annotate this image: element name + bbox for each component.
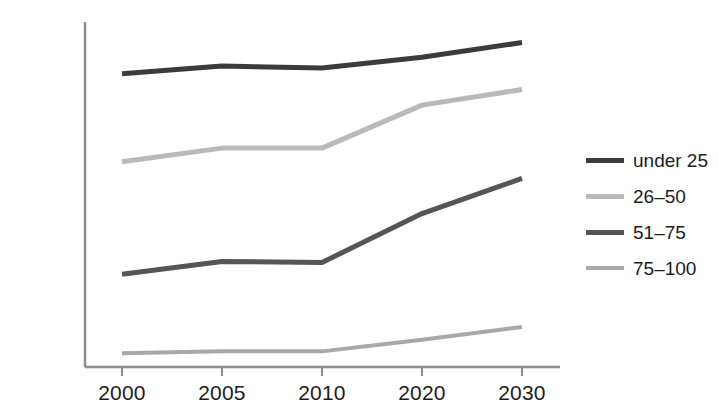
x-axis-tick-label: 2010 — [282, 382, 362, 403]
chart-legend: under 2526–5051–7575–100 — [586, 142, 719, 286]
legend-swatch-icon — [586, 194, 624, 199]
x-axis-tick-label: 2000 — [82, 382, 162, 403]
legend-swatch-icon — [586, 230, 624, 235]
legend-swatch-icon — [586, 158, 624, 163]
line-chart: 0500 M1 B1.5 B2 B2.5 B3 B3.5 B 200020052… — [0, 0, 719, 411]
legend-item-label: 75–100 — [633, 259, 696, 278]
x-axis-tick-label: 2005 — [182, 382, 262, 403]
legend-item[interactable]: 26–50 — [586, 178, 719, 214]
legend-item-label: 26–50 — [633, 187, 686, 206]
x-axis-tick-label: 2020 — [382, 382, 462, 403]
legend-item[interactable]: under 25 — [586, 142, 719, 178]
legend-swatch-icon — [586, 266, 624, 270]
legend-item[interactable]: 51–75 — [586, 214, 719, 250]
legend-item[interactable]: 75–100 — [586, 250, 719, 286]
legend-item-label: 51–75 — [633, 223, 686, 242]
legend-item-label: under 25 — [633, 151, 708, 170]
x-axis-tick-label: 2030 — [482, 382, 562, 403]
